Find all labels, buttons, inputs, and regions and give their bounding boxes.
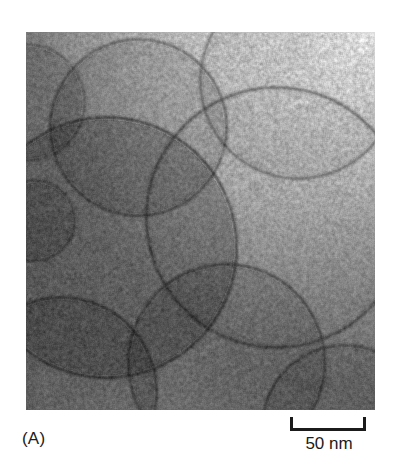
tem-micrograph-image [26, 32, 375, 410]
tem-figure-panel: (A) 50 nm [0, 0, 403, 475]
scale-bar-tick-right [363, 417, 366, 431]
scale-bar-label: 50 nm [288, 434, 370, 454]
scale-bar [288, 416, 370, 432]
scale-bar-tick-left [290, 417, 293, 431]
scale-bar-line [290, 428, 366, 431]
tem-micrograph-canvas [26, 32, 375, 410]
panel-label: (A) [22, 429, 45, 449]
